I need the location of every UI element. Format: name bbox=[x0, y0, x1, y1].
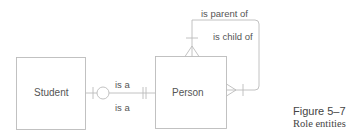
is-parent-of-label: is parent of bbox=[201, 9, 248, 19]
is-child-of-label: is child of bbox=[213, 32, 253, 42]
crows-foot-icon bbox=[185, 46, 192, 57]
crows-foot-icon bbox=[227, 90, 237, 96]
figure-caption: Role entities bbox=[293, 119, 346, 130]
er-diagram: Student Person is a is a is parent of is… bbox=[0, 0, 354, 137]
is-a-top-label: is a bbox=[115, 80, 130, 90]
figure-number: Figure 5–7 bbox=[293, 106, 346, 117]
person-entity-label: Person bbox=[172, 88, 204, 98]
crows-foot-icon bbox=[227, 84, 237, 90]
zero-circle-icon bbox=[97, 87, 109, 99]
is-a-bottom-label: is a bbox=[115, 103, 130, 113]
crows-foot-icon bbox=[192, 46, 199, 57]
student-entity-label: Student bbox=[34, 88, 68, 98]
